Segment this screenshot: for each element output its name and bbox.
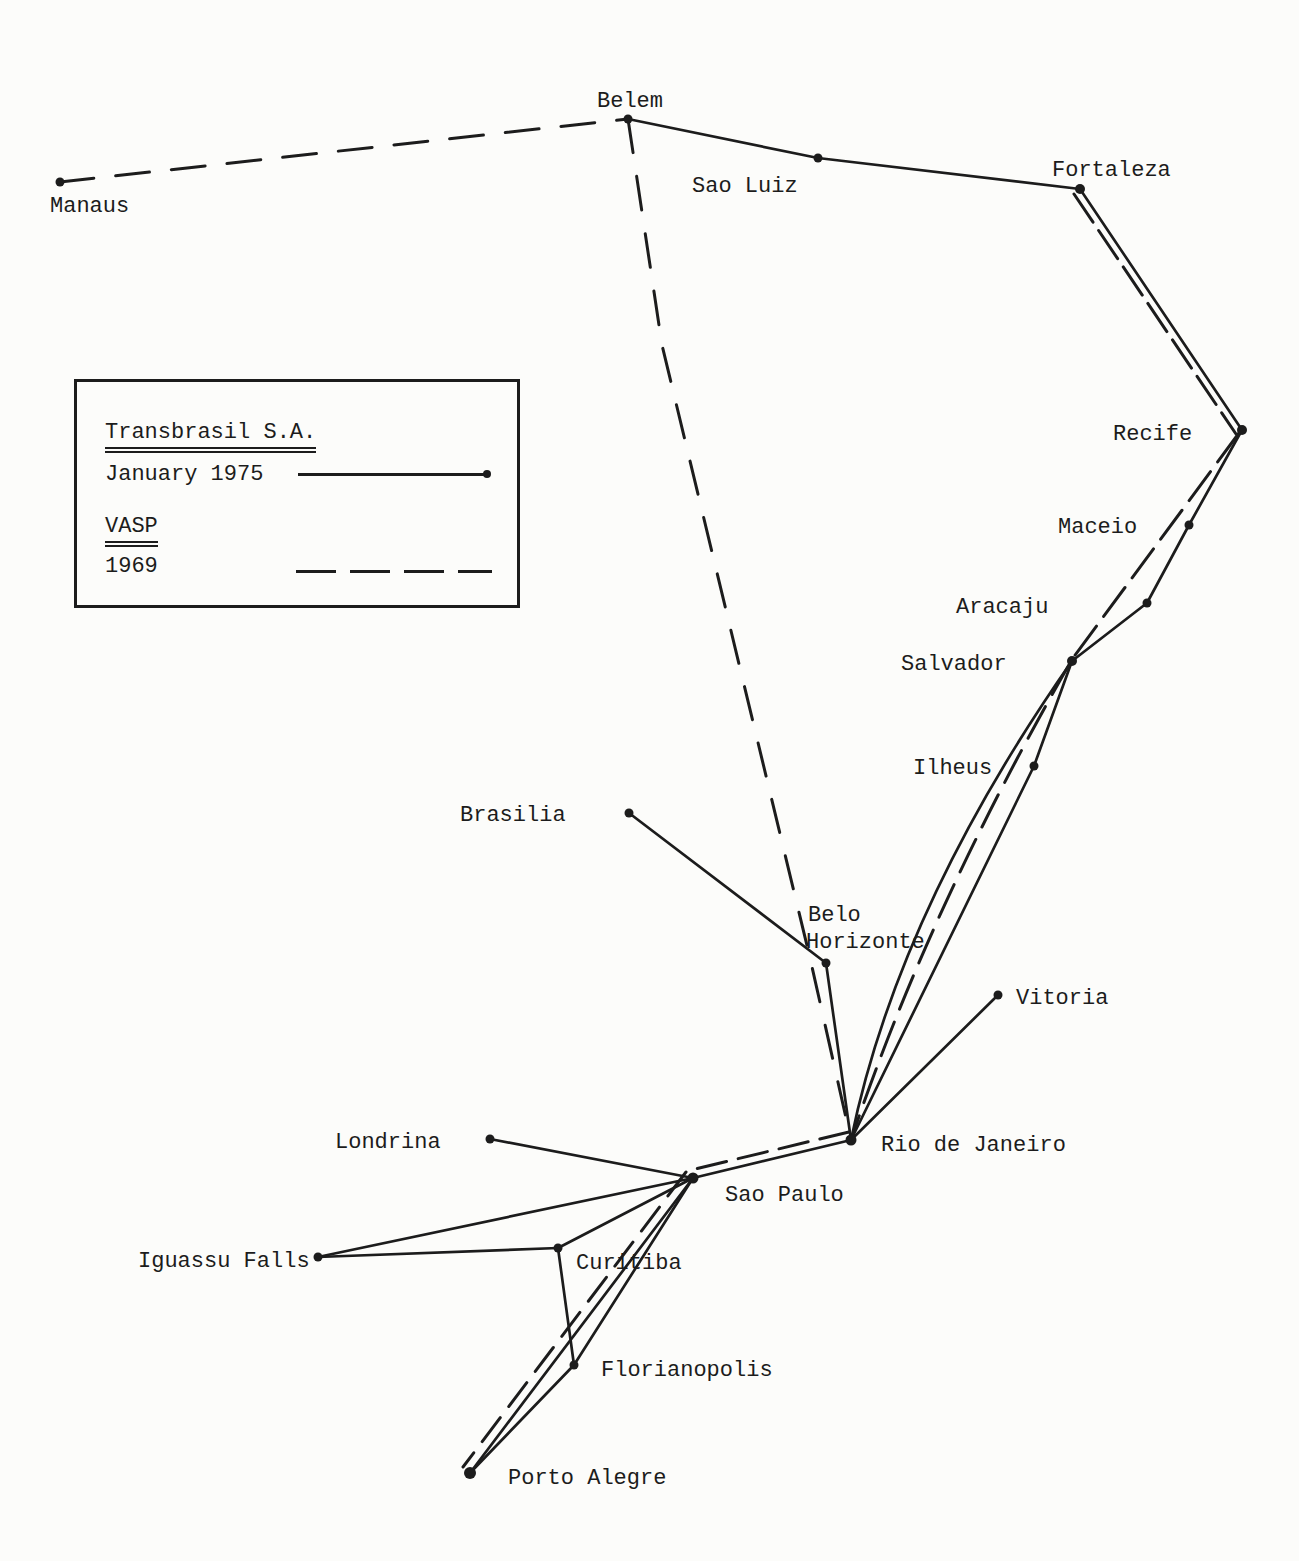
city-dot-porto-alegre bbox=[464, 1467, 476, 1479]
city-label-ilheus: Ilheus bbox=[913, 756, 992, 781]
city-dot-salvador bbox=[1067, 656, 1077, 666]
route-vasp-sao-paulo-porto-alegre bbox=[463, 1172, 686, 1467]
city-label-recife: Recife bbox=[1113, 422, 1192, 447]
city-dot-florianopolis bbox=[570, 1361, 579, 1370]
city-dot-manaus bbox=[56, 178, 65, 187]
city-dot-curitiba bbox=[554, 1244, 563, 1253]
city-dot-iguassu-falls bbox=[314, 1253, 323, 1262]
route-transbrasil-londrina-sao-paulo bbox=[490, 1139, 693, 1178]
legend-box: Transbrasil S.A. January 1975 VASP 1969 bbox=[74, 379, 520, 608]
city-dot-maceio bbox=[1185, 521, 1194, 530]
city-label-florianopolis: Florianopolis bbox=[601, 1358, 773, 1383]
city-dot-sao-luiz bbox=[814, 154, 823, 163]
route-transbrasil-brasilia-belo-horizonte bbox=[629, 813, 826, 963]
route-transbrasil-rio-de-janeiro-sao-paulo bbox=[693, 1140, 851, 1178]
route-transbrasil-belem-sao-luiz bbox=[628, 119, 818, 158]
city-dot-rio-de-janeiro bbox=[846, 1135, 857, 1146]
legend-dashed-line-sample bbox=[296, 570, 492, 573]
route-transbrasil-maceio-aracaju bbox=[1147, 525, 1189, 603]
city-label-belo-horizonte-line1: Belo bbox=[808, 903, 861, 928]
city-dot-recife bbox=[1237, 425, 1247, 435]
route-map-canvas: ManausBelemSao LuizFortalezaRecifeMaceio… bbox=[0, 0, 1299, 1561]
city-dot-ilheus bbox=[1030, 762, 1039, 771]
city-label-fortaleza: Fortaleza bbox=[1052, 158, 1171, 183]
city-label-curitiba: Curitiba bbox=[576, 1251, 682, 1276]
city-label-maceio: Maceio bbox=[1058, 515, 1137, 540]
route-transbrasil-sao-paulo-porto-alegre bbox=[470, 1178, 693, 1473]
city-label-belo-horizonte-line2: Horizonte bbox=[806, 930, 925, 955]
city-dot-londrina bbox=[486, 1135, 495, 1144]
legend-airline-transbrasil: Transbrasil S.A. bbox=[105, 420, 316, 453]
city-dot-belem bbox=[624, 115, 633, 124]
route-transbrasil-recife-maceio bbox=[1189, 430, 1242, 525]
city-label-aracaju: Aracaju bbox=[956, 595, 1048, 620]
city-label-brasilia: Brasilia bbox=[460, 803, 566, 828]
route-vasp-recife-salvador bbox=[1070, 433, 1239, 662]
legend-period-transbrasil: January 1975 bbox=[105, 462, 263, 487]
route-vasp-salvador-rio-de-janeiro bbox=[851, 663, 1070, 1140]
route-map-page: ManausBelemSao LuizFortalezaRecifeMaceio… bbox=[0, 0, 1299, 1561]
route-transbrasil-florianopolis-porto-alegre bbox=[470, 1365, 574, 1473]
route-transbrasil-fortaleza-recife bbox=[1080, 189, 1242, 430]
city-label-manaus: Manaus bbox=[50, 194, 129, 219]
city-label-rio-de-janeiro: Rio de Janeiro bbox=[881, 1133, 1066, 1158]
city-label-iguassu-falls: Iguassu Falls bbox=[138, 1249, 310, 1274]
city-label-vitoria: Vitoria bbox=[1016, 986, 1108, 1011]
route-vasp-fortaleza-recife bbox=[1074, 194, 1236, 434]
route-transbrasil-curitiba-sao-paulo bbox=[558, 1178, 693, 1248]
route-transbrasil-aracaju-salvador bbox=[1072, 603, 1147, 661]
city-dot-aracaju bbox=[1143, 599, 1152, 608]
route-vasp-manaus-belem bbox=[60, 119, 628, 182]
city-label-belem: Belem bbox=[597, 89, 663, 114]
city-dot-fortaleza bbox=[1075, 184, 1085, 194]
city-label-sao-paulo: Sao Paulo bbox=[725, 1183, 844, 1208]
route-transbrasil-iguassu-falls-sao-paulo bbox=[318, 1178, 693, 1257]
city-label-salvador: Salvador bbox=[901, 652, 1007, 677]
city-dot-sao-paulo bbox=[688, 1173, 699, 1184]
route-transbrasil-salvador-rio-de-janeiro bbox=[851, 661, 1072, 1140]
city-label-londrina: Londrina bbox=[335, 1130, 441, 1155]
city-dot-brasilia bbox=[625, 809, 634, 818]
route-transbrasil-vitoria-rio-de-janeiro bbox=[851, 995, 998, 1140]
legend-airline-vasp: VASP bbox=[105, 514, 158, 547]
legend-period-vasp: 1969 bbox=[105, 554, 158, 579]
route-transbrasil-salvador-ilheus bbox=[1034, 661, 1072, 766]
city-dot-vitoria bbox=[994, 991, 1003, 1000]
city-label-sao-luiz: Sao Luiz bbox=[692, 174, 798, 199]
route-vasp-rio-de-janeiro-sao-paulo bbox=[691, 1132, 849, 1170]
city-label-porto-alegre: Porto Alegre bbox=[508, 1466, 666, 1491]
city-dot-belo-horizonte bbox=[822, 959, 831, 968]
route-transbrasil-sao-luiz-fortaleza bbox=[818, 158, 1080, 189]
route-vasp-belem-rio-de-janeiro bbox=[628, 119, 851, 1140]
legend-solid-line-sample bbox=[298, 473, 488, 476]
